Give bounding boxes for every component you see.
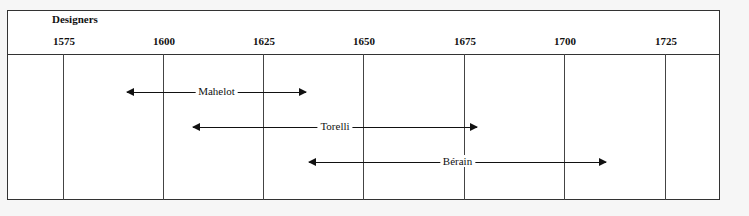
tick-label-1575: 1575 [53, 35, 75, 47]
tick-label-1700: 1700 [554, 35, 576, 47]
bar-label: Mahelot [195, 85, 238, 97]
gridline-1700 [564, 54, 565, 200]
tick-label-1600: 1600 [153, 35, 175, 47]
tick-label-1625: 1625 [253, 35, 275, 47]
timeline-bar-torelli: Torelli [193, 127, 477, 128]
arrow-left-icon [126, 88, 134, 96]
bar-label: Bérain [440, 155, 475, 167]
arrow-right-icon [470, 123, 478, 131]
timeline-bar-mahelot: Mahelot [127, 92, 306, 93]
arrow-left-icon [192, 123, 200, 131]
timeline-bar-berain: Bérain [309, 162, 606, 163]
gridline-1575 [63, 54, 64, 200]
gridline-1725 [665, 54, 666, 200]
tick-label-1725: 1725 [655, 35, 677, 47]
tick-label-1675: 1675 [454, 35, 476, 47]
arrow-right-icon [299, 88, 307, 96]
tick-label-1650: 1650 [353, 35, 375, 47]
bar-label: Torelli [317, 120, 352, 132]
gridline-1600 [163, 54, 164, 200]
arrow-right-icon [599, 158, 607, 166]
chart-title: Designers [52, 13, 98, 25]
arrow-left-icon [308, 158, 316, 166]
